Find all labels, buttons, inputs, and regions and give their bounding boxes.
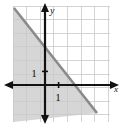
- graph-canvas: y x 1 1: [0, 0, 126, 130]
- coordinate-plane-figure: y x 1 1: [0, 0, 126, 130]
- x-axis-label: x: [113, 84, 118, 94]
- y-unit-tick-label: 1: [31, 67, 37, 79]
- y-axis-label: y: [49, 5, 55, 16]
- x-unit-tick-label: 1: [55, 91, 61, 103]
